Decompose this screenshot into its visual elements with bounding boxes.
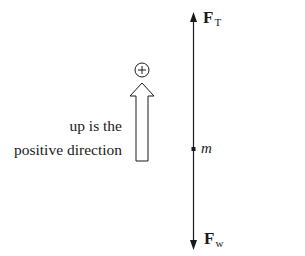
tension-arrowhead-icon — [190, 12, 197, 22]
caption-line-2: positive direction — [14, 138, 122, 162]
weight-force-subscript: w — [215, 237, 223, 249]
mass-point-icon — [192, 147, 196, 151]
circled-plus-icon — [135, 63, 149, 77]
tension-force-subscript: T — [214, 16, 221, 28]
tension-force-symbol: F — [203, 8, 213, 27]
tension-force-label: FT — [203, 9, 221, 28]
positive-direction-arrow-icon — [130, 83, 154, 161]
weight-force-symbol: F — [204, 229, 214, 248]
weight-arrowhead-icon — [190, 240, 197, 250]
sign-convention-caption: up is the positive direction — [14, 114, 122, 162]
weight-force-label: Fw — [204, 230, 223, 249]
mass-label: m — [201, 141, 212, 156]
free-body-diagram: FT Fw m up is the positive direction — [0, 0, 305, 256]
caption-line-1: up is the — [14, 114, 122, 138]
